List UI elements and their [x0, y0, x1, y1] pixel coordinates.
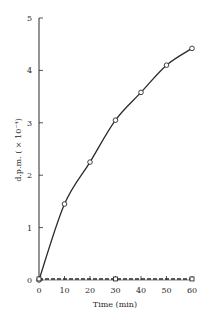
- solid-curve: [39, 48, 192, 280]
- x-tick-label: 40: [136, 286, 146, 295]
- y-tick-label: 3: [27, 119, 32, 128]
- y-tick-label: 2: [27, 171, 32, 180]
- chart: 012345 0102030405060 Time (min) d.p.m. (…: [0, 0, 209, 322]
- square-marker: [190, 277, 194, 281]
- y-tick-label: 5: [27, 14, 32, 23]
- circle-marker: [62, 202, 67, 207]
- y-axis-label: d.p.m. ( × 10⁻⁴): [14, 118, 23, 182]
- circle-marker: [190, 46, 195, 51]
- x-tick-label: 20: [85, 286, 95, 295]
- circle-marker: [139, 90, 144, 95]
- square-marker: [114, 277, 118, 281]
- circle-marker: [113, 118, 118, 123]
- circle-marker: [164, 63, 169, 68]
- y-tick-label: 4: [27, 66, 32, 75]
- y-tick-label: 0: [27, 276, 32, 285]
- x-tick-label: 30: [110, 286, 120, 295]
- y-tick-label: 1: [27, 224, 32, 233]
- x-tick-label: 10: [59, 286, 69, 295]
- circle-marker: [88, 160, 93, 165]
- data-markers: [37, 46, 195, 282]
- x-tick-label: 0: [36, 286, 41, 295]
- x-tick-label: 50: [161, 286, 171, 295]
- x-tick-label: 60: [187, 286, 197, 295]
- y-axis-ticks: 012345: [27, 14, 43, 285]
- x-axis-label: Time (min): [93, 300, 137, 309]
- square-marker: [37, 277, 41, 281]
